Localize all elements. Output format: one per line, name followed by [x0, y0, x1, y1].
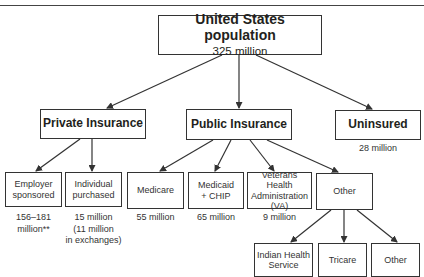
node-indian-health-service: Indian Health Service — [254, 243, 313, 277]
node-medicare: Medicare — [127, 172, 184, 209]
node-other-other: Other — [371, 243, 420, 277]
node-label: Other — [333, 186, 356, 196]
node-public-insurance: Public Insurance — [186, 109, 292, 140]
node-label: Uninsured — [348, 118, 407, 132]
node-label: Public Insurance — [191, 118, 287, 132]
node-label: Individual purchased — [70, 179, 118, 200]
node-us-population: United States population 325 million — [158, 15, 322, 55]
medicaid-value: 65 million — [186, 212, 246, 224]
node-label: Medicare — [137, 185, 174, 195]
node-label: Private Insurance — [43, 117, 143, 131]
node-label: Employer sponsored — [12, 179, 56, 200]
node-title: United States population — [159, 11, 321, 43]
node-private-insurance: Private Insurance — [40, 109, 146, 139]
medicare-value: 55 million — [125, 212, 186, 224]
uninsured-value: 28 million — [335, 143, 421, 155]
va-value: 9 million — [247, 212, 312, 224]
node-employer-sponsored: Employer sponsored — [5, 172, 62, 207]
node-value: 325 million — [213, 45, 268, 58]
node-individual-purchased: Individual purchased — [65, 172, 122, 207]
node-public-other: Other — [316, 173, 373, 210]
node-medicaid-chip: Medicaid + CHIP — [188, 172, 244, 209]
node-veterans-health-administration: Veterans Health Administration (VA) — [247, 172, 312, 209]
individual-value: 15 million (11 million in exchanges) — [60, 212, 127, 247]
node-uninsured: Uninsured — [335, 110, 421, 140]
employer-value: 156–181 million** — [2, 212, 65, 235]
node-label: Other — [384, 255, 407, 265]
node-tricare: Tricare — [318, 243, 367, 277]
node-label: Tricare — [329, 255, 357, 265]
